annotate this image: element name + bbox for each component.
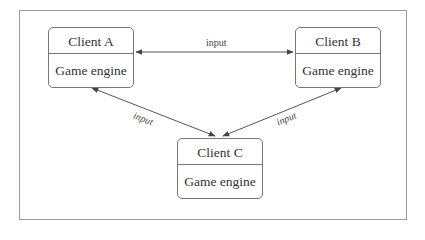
node-body: Game engine — [49, 54, 133, 88]
edge-label-a-b: input — [206, 37, 227, 48]
edge-a-c — [92, 88, 215, 136]
node-body: Game engine — [178, 165, 262, 199]
edge-b-c — [223, 88, 341, 136]
node-title: Client A — [49, 28, 133, 54]
node-body: Game engine — [296, 54, 380, 88]
node-client-a: Client A Game engine — [48, 27, 134, 88]
node-client-b: Client B Game engine — [295, 27, 381, 88]
node-title: Client B — [296, 28, 380, 54]
node-title: Client C — [178, 139, 262, 165]
node-client-c: Client C Game engine — [177, 138, 263, 199]
